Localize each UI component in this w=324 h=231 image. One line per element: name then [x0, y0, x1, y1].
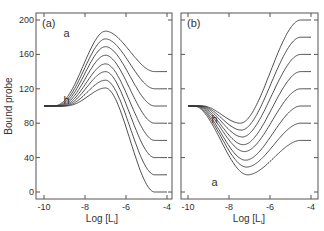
y-tick-label: 160 — [19, 49, 34, 59]
curve-b — [44, 39, 167, 106]
curve-a — [44, 31, 167, 106]
chart-canvas: -10-8-6-404080120160200(a)ah -10-8-6-4(b… — [0, 0, 324, 231]
curve-f — [44, 72, 167, 158]
x-axis-label-a: Log [Lt] — [86, 213, 118, 225]
x-tick-label: -4 — [163, 202, 171, 212]
y-axis-label: Bound probe — [3, 77, 14, 135]
y-tick-label: 120 — [19, 84, 34, 94]
panel-label: (a) — [42, 17, 55, 29]
x-tick-label: -10 — [181, 202, 194, 212]
figure: -10-8-6-404080120160200(a)ah -10-8-6-4(b… — [0, 0, 324, 231]
x-tick-label: -6 — [122, 202, 130, 212]
y-tick-label: 0 — [29, 187, 34, 197]
panel-a: -10-8-6-404080120160200(a)ah — [19, 13, 172, 212]
x-tick-label: -6 — [266, 202, 274, 212]
panel-label: (b) — [187, 17, 200, 29]
curve-label-a: a — [212, 176, 219, 188]
x-tick-label: -8 — [81, 202, 89, 212]
y-tick-label: 200 — [19, 15, 34, 25]
y-tick-label: 40 — [24, 153, 34, 163]
panel-b: -10-8-6-4(b)ha — [181, 13, 318, 212]
x-axis-label-b: Log [Lt] — [233, 213, 265, 225]
x-tick-label: -8 — [225, 202, 233, 212]
y-tick-label: 80 — [24, 118, 34, 128]
curve-label-a: a — [63, 27, 70, 39]
x-tick-label: -10 — [37, 202, 50, 212]
curve-label-h: h — [212, 113, 218, 125]
curve-d — [44, 55, 167, 123]
curve-g — [44, 80, 167, 175]
curve-label-h: h — [63, 94, 69, 106]
x-tick-label: -4 — [307, 202, 315, 212]
